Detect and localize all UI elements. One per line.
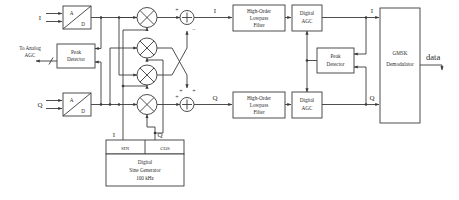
sine-generator-block[interactable]: SIN COS Digital Sine Generator 100 kHz [106, 140, 184, 186]
adc-i-bottom-label: D [81, 21, 85, 27]
agc-i-line1: Digital [300, 10, 315, 16]
mixer-4[interactable] [137, 95, 157, 115]
junction-dot [365, 103, 368, 106]
generator-q-label: Q [157, 131, 162, 139]
mid-q-label: Q [212, 94, 217, 102]
agc-q-line2: AGC [302, 105, 313, 111]
mixer-1[interactable] [137, 8, 157, 28]
agc-i-line2: AGC [302, 18, 313, 24]
lowpass-q-line1: High-Order [247, 95, 271, 101]
generator-i-label: I [113, 131, 116, 139]
digital-agc-i-block[interactable]: Digital AGC [292, 5, 322, 31]
to-analog-agc-line2: AGC [25, 52, 36, 58]
sine-generator-sin-label: SIN [121, 146, 129, 151]
q-input-label: Q [37, 101, 42, 109]
peak-detector-left-line2: Detector [67, 56, 85, 62]
data-output-label: data [426, 52, 440, 62]
sine-generator-cos-label: COS [160, 146, 170, 151]
adder-i[interactable]: + − [175, 7, 196, 32]
adder-q-sign-right: + [192, 88, 196, 94]
i-input-label: I [39, 14, 42, 22]
to-analog-agc-line1: To Analog [19, 45, 41, 51]
sine-generator-line1: Digital [138, 159, 153, 165]
lowpass-filter-q-block[interactable]: High-Order Lowpass Filter [233, 92, 285, 118]
lowpass-q-line2: Lowpass [250, 102, 268, 108]
adder-i-sign-left: + [175, 7, 179, 13]
digital-agc-q-block[interactable]: Digital AGC [292, 92, 322, 118]
sine-generator-line3: 100 kHz [136, 175, 154, 181]
lowpass-i-line2: Lowpass [250, 15, 268, 21]
adder-q-sign-left: + [175, 94, 179, 100]
adder-i-sign-bottom: − [192, 26, 196, 32]
adc-i-top-label: A [70, 10, 74, 16]
adder-q[interactable]: + + + [175, 88, 196, 112]
q-input-group: Q [37, 101, 62, 110]
i-input-group: I [39, 14, 62, 23]
adder-q-sign-top: + [179, 88, 183, 94]
agc-q-line1: Digital [300, 97, 315, 103]
mid-i-label: I [214, 7, 217, 15]
schematic-svg: I A D Q A D Peak Detector [0, 0, 459, 200]
demod-i-label: I [371, 7, 374, 15]
block-diagram-canvas: I A D Q A D Peak Detector [0, 0, 459, 200]
adc-q-block[interactable]: A D [63, 93, 91, 116]
lowpass-i-line1: High-Order [247, 8, 271, 14]
junction-dot [118, 103, 121, 106]
to-analog-agc-annotation: To Analog AGC [19, 45, 57, 65]
mixer-3[interactable] [137, 65, 157, 85]
mixer-2[interactable] [137, 38, 157, 58]
lowpass-filter-i-block[interactable]: High-Order Lowpass Filter [233, 5, 285, 31]
adc-q-top-label: A [70, 97, 74, 103]
demodulator-line2: Demodulator [386, 61, 414, 67]
peak-detector-right-line2: Detector [327, 61, 345, 67]
peak-detector-left-block[interactable]: Peak Detector [57, 44, 95, 68]
adc-q-bottom-label: D [81, 108, 85, 114]
sine-generator-line2: Sine Generator [129, 167, 161, 173]
peak-detector-right-line1: Peak [330, 53, 340, 59]
adc-i-block[interactable]: A D [63, 6, 91, 29]
peak-detector-left-line1: Peak [71, 49, 81, 55]
gmsk-demodulator-block[interactable]: GMSK Demodulator [380, 8, 420, 123]
lowpass-i-line3: Filter [253, 22, 265, 28]
peak-detector-right-block[interactable]: Peak Detector [317, 48, 354, 73]
lowpass-q-line3: Filter [253, 109, 265, 115]
demod-q-label: Q [369, 94, 374, 102]
demodulator-line1: GMSK [393, 50, 408, 56]
junction-dot [365, 16, 368, 19]
